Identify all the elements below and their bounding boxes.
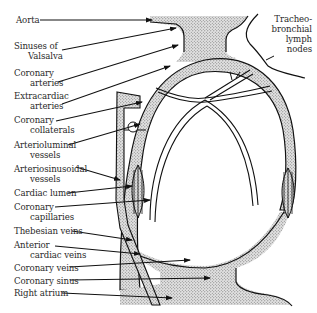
label-coronary-arteries: Coronary arteries	[14, 68, 63, 88]
label-line1: Coronary	[14, 68, 63, 78]
label-line2: arteries	[14, 101, 69, 111]
label-cardiac-lumen-text: Cardiac lumen	[14, 188, 76, 198]
label-coronary-veins-text: Coronary veins	[14, 263, 79, 273]
label-coronary-capillaries: Coronary capillaries	[14, 202, 74, 222]
label-line2: vessels	[14, 174, 87, 184]
label-line3: lymph	[268, 34, 312, 44]
label-thebesian-veins: Thebesian veins	[14, 226, 83, 236]
label-thebesian-veins-text: Thebesian veins	[14, 226, 83, 236]
aorta-shape	[150, 16, 248, 62]
label-aorta: Aorta	[16, 15, 40, 25]
label-extracardiac-arteries: Extracardiac arteries	[14, 91, 69, 111]
label-arterioluminal-vessels: Arterioluminal vessels	[14, 140, 76, 160]
label-arteriosinusoidal-vessels: Arteriosinusoidal vessels	[14, 164, 87, 184]
label-coronary-collaterals: Coronary collaterals	[14, 115, 74, 135]
label-line2: capillaries	[14, 212, 74, 222]
label-line1: Coronary	[14, 115, 74, 125]
label-line1: Anterior	[14, 240, 86, 250]
label-coronary-sinus: Coronary sinus	[14, 276, 79, 286]
label-anterior-cardiac-veins: Anterior cardiac veins	[14, 240, 86, 260]
label-tracheobronchial-lymph-nodes: Tracheo- bronchial lymph nodes	[268, 14, 312, 54]
label-coronary-sinus-text: Coronary sinus	[14, 276, 79, 286]
label-line4: nodes	[268, 44, 312, 54]
capillary-bundle-left	[132, 165, 144, 218]
label-cardiac-lumen: Cardiac lumen	[14, 188, 76, 198]
ventricle-chamber	[146, 70, 272, 265]
label-line2: collaterals	[14, 125, 74, 135]
label-line1: Arteriosinusoidal	[14, 164, 87, 174]
label-line1: Coronary	[14, 202, 74, 212]
label-line1: Sinuses of	[14, 41, 63, 51]
label-right-atrium: Right atrium	[14, 288, 68, 298]
label-sinuses-of-valsalva: Sinuses of Valsalva	[14, 41, 63, 61]
label-aorta-text: Aorta	[16, 15, 40, 25]
label-line1: Arterioluminal	[14, 140, 76, 150]
label-line1: Extracardiac	[14, 91, 69, 101]
label-line2: vessels	[14, 150, 76, 160]
label-line2: Valsalva	[14, 51, 63, 61]
label-line1: Tracheo-	[268, 14, 312, 24]
label-line2: arteries	[14, 78, 63, 88]
coronary-circulation-diagram: Aorta Sinuses of Valsalva Coronary arter…	[0, 0, 317, 313]
label-coronary-veins: Coronary veins	[14, 263, 79, 273]
label-line2: cardiac veins	[14, 250, 86, 260]
capillary-bundle-right	[282, 168, 294, 218]
label-line2: bronchial	[268, 24, 312, 34]
label-right-atrium-text: Right atrium	[14, 288, 68, 298]
